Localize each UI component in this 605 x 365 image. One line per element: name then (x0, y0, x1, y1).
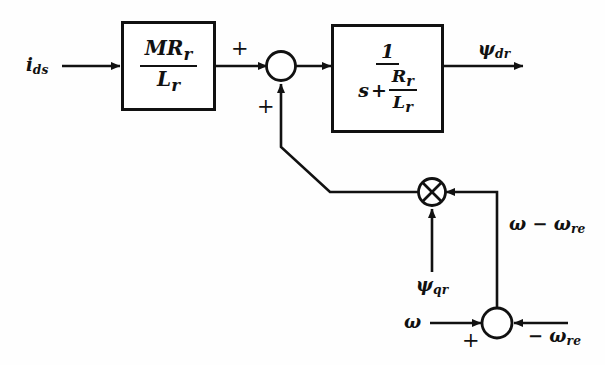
label-psi-qr: ψqr (416, 276, 448, 296)
lag-block-den-s: s (357, 81, 370, 101)
top-summing-junction (267, 52, 296, 81)
block-diagram-figure: MRr Lr 1 s + Rr Lr ids ψdr ψqr ω − ωre ω… (0, 0, 605, 365)
gain-block-denominator: Lr (152, 67, 185, 95)
label-negative-omega-re: − ωre (528, 327, 581, 347)
wire-slipspeed-to-multiplier (446, 192, 497, 309)
sign-top-sum-left: + (231, 38, 249, 59)
lag-block-inner-fraction: Rr Lr (388, 67, 418, 116)
sign-bottom-sum-left: + (462, 330, 480, 351)
label-slip-speed: ω − ωre (509, 215, 586, 235)
diagram-wiring (0, 0, 605, 365)
gain-block: MRr Lr (121, 21, 216, 111)
lag-block-fraction: 1 s + Rr Lr (352, 42, 423, 115)
gain-block-fraction: MRr Lr (140, 38, 198, 94)
lag-block-inner-denominator: Lr (388, 91, 418, 115)
lag-block: 1 s + Rr Lr (331, 24, 444, 133)
sign-top-sum-bottom: + (257, 96, 275, 117)
lag-block-inner-numerator: Rr (389, 67, 417, 92)
lag-block-numerator: 1 (376, 42, 399, 65)
lag-block-denominator: s + Rr Lr (352, 65, 423, 116)
gain-block-numerator: MRr (140, 38, 198, 67)
bottom-summing-junction (482, 308, 512, 338)
label-input-current: ids (26, 56, 49, 76)
lag-block-den-plus: + (370, 81, 388, 101)
label-omega: ω (404, 313, 421, 331)
label-output-psi-dr: ψdr (478, 40, 510, 60)
